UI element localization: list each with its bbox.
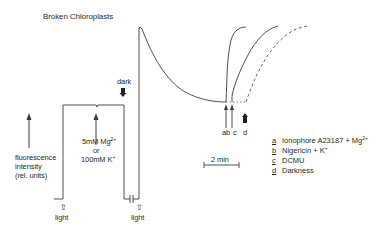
marker-arrow-c (230, 104, 234, 128)
light-arrow-icon-2: ⇧ (136, 203, 143, 212)
dark-marker-icon (120, 88, 127, 97)
legend-text-c: DCMU (282, 156, 305, 165)
legend-text-b: Nigericin + K (282, 146, 325, 155)
light-arrow-icon-1: ⇧ (60, 203, 67, 212)
y-axis-label-line1: fluorescence (15, 153, 56, 162)
figure-title: Broken Chloroplasts (43, 12, 113, 21)
legend-text-d: Darkness (282, 166, 314, 175)
legend-item-b: bNigericin + K+ (272, 146, 328, 155)
trace-second-light-decay (133, 27, 225, 199)
legend-item-c: cDCMU (272, 156, 305, 165)
curve-d-darkness (246, 26, 308, 102)
legend-sup-a: 2+ (362, 135, 368, 141)
light-label-2: light (131, 213, 144, 222)
dark-label: dark (117, 77, 131, 86)
scale-bar-label: 2 min (211, 155, 229, 164)
addition-label-k: 100mM K+ (81, 155, 115, 164)
light-label-1: light (55, 213, 68, 222)
addition-sup-mg: 2+ (111, 136, 117, 142)
marker-label-d: d (243, 128, 247, 137)
legend-item-a: aIonophore A23187 + Mg2+ (272, 136, 368, 145)
addition-label-mg: 5mM Mg2+ (82, 137, 116, 146)
legend-key-b: b (272, 146, 282, 155)
legend-text-a: Ionophore A23187 + Mg (282, 136, 362, 145)
addition-text-k: 100mM K (81, 155, 112, 164)
y-axis-label-line3: (rel. units) (15, 171, 47, 180)
marker-label-ab: ab (222, 128, 230, 137)
marker-label-c: c (233, 128, 237, 137)
fluorescence-trace-plot (0, 0, 381, 235)
axis-break-marks (130, 195, 133, 203)
trace-initial-light-period (54, 105, 130, 199)
addition-sup-k: + (112, 154, 115, 160)
legend-item-d: dDarkness (272, 166, 314, 175)
legend-sup-b: + (325, 145, 328, 151)
y-axis-label-line2: intensity (15, 162, 42, 171)
legend-key-c: c (272, 156, 282, 165)
addition-text-mg: 5mM Mg (82, 137, 111, 146)
addition-label-or: or (93, 146, 99, 155)
y-axis-arrow (27, 113, 32, 148)
curve-b-nigericin (232, 26, 278, 102)
legend-key-d: d (272, 166, 282, 175)
marker-arrow-ab (224, 104, 228, 128)
marker-d-darkness-icon (242, 113, 248, 123)
legend-key-a: a (272, 136, 282, 145)
